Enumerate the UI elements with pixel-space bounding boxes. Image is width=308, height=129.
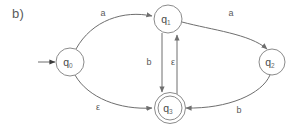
edge-label-q1-q2: a [228, 8, 233, 18]
state-node-q1[interactable]: q1 [154, 5, 182, 33]
edge-label-q2-q3: b [236, 105, 241, 115]
edge-q0-q3 [75, 75, 152, 108]
state-node-q0[interactable]: q0 [56, 48, 84, 76]
state-diagram: a a b ε ε b q0 q1 q2 [0, 0, 308, 129]
state-label-sub-q2: 2 [271, 62, 275, 69]
state-label-sub-q1: 1 [167, 19, 171, 26]
edge-label-q0-q3: ε [96, 102, 100, 112]
edge-label-q0-q1: a [100, 8, 105, 18]
edge-q2-q3 [186, 75, 270, 108]
figure-canvas: b) a a b ε ε b [0, 0, 308, 129]
edge-label-q3-q1: ε [171, 57, 175, 67]
edge-q0-q1 [76, 14, 152, 49]
state-label-sub-q3: 3 [169, 108, 173, 115]
state-node-q2[interactable]: q2 [259, 49, 285, 75]
edge-label-q1-q3: b [146, 57, 151, 67]
state-label-sub-q0: 0 [69, 62, 73, 69]
state-node-q3[interactable]: q3 [155, 93, 186, 124]
edge-q1-q2 [182, 22, 267, 49]
